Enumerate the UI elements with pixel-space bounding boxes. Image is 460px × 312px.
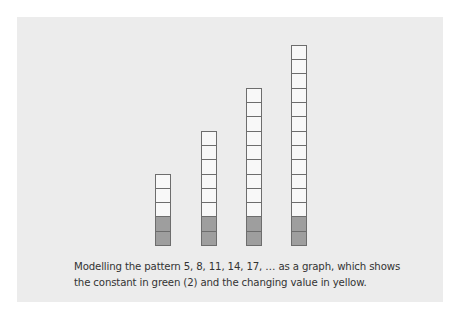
- changing-cell: [201, 202, 217, 217]
- constant-cell: [201, 231, 217, 246]
- constant-cell: [246, 216, 262, 231]
- changing-cell: [291, 59, 307, 74]
- caption-line-2: the constant in green (2) and the changi…: [74, 275, 414, 291]
- changing-cell: [155, 174, 171, 189]
- changing-cell: [291, 131, 307, 146]
- figure-caption: Modelling the pattern 5, 8, 11, 14, 17, …: [74, 259, 414, 291]
- changing-cell: [246, 202, 262, 217]
- constant-cell: [291, 216, 307, 231]
- constant-cell: [246, 231, 262, 246]
- changing-cell: [246, 159, 262, 174]
- caption-line-1: Modelling the pattern 5, 8, 11, 14, 17, …: [74, 259, 414, 275]
- changing-cell: [291, 145, 307, 160]
- changing-cell: [291, 174, 307, 189]
- column-term-11: [246, 88, 262, 246]
- changing-cell: [201, 174, 217, 189]
- changing-cell: [291, 45, 307, 60]
- changing-cell: [155, 202, 171, 217]
- changing-cell: [291, 116, 307, 131]
- changing-cell: [246, 116, 262, 131]
- column-term-8: [201, 131, 217, 246]
- changing-cell: [291, 159, 307, 174]
- changing-cell: [246, 88, 262, 103]
- changing-cell: [201, 131, 217, 146]
- changing-cell: [291, 102, 307, 117]
- column-term-14: [291, 45, 307, 246]
- constant-cell: [201, 216, 217, 231]
- constant-cell: [155, 216, 171, 231]
- changing-cell: [246, 145, 262, 160]
- changing-cell: [201, 145, 217, 160]
- changing-cell: [155, 188, 171, 203]
- changing-cell: [246, 174, 262, 189]
- changing-cell: [246, 131, 262, 146]
- changing-cell: [291, 73, 307, 88]
- changing-cell: [291, 88, 307, 103]
- changing-cell: [246, 102, 262, 117]
- constant-cell: [155, 231, 171, 246]
- constant-cell: [291, 231, 307, 246]
- figure-panel: Modelling the pattern 5, 8, 11, 14, 17, …: [17, 17, 443, 302]
- changing-cell: [291, 188, 307, 203]
- changing-cell: [201, 159, 217, 174]
- changing-cell: [246, 188, 262, 203]
- changing-cell: [291, 202, 307, 217]
- column-term-5: [155, 174, 171, 246]
- changing-cell: [201, 188, 217, 203]
